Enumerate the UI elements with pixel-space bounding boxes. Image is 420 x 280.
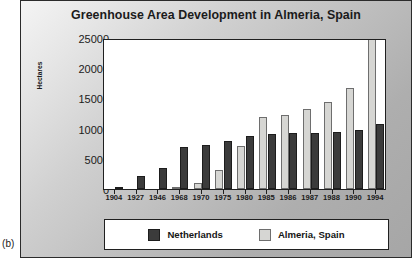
x-tick-label: 1927	[127, 193, 144, 202]
x-tick-label: 1904	[105, 193, 122, 202]
bar-almeria-1986	[281, 115, 289, 189]
bar-almeria-1970	[194, 183, 202, 189]
bar-almeria-1994	[368, 39, 376, 189]
bar-group	[300, 40, 322, 189]
x-tick-label: 1986	[280, 193, 297, 202]
legend-label: Almeria, Spain	[278, 229, 345, 240]
y-tick-label: 20000	[43, 63, 109, 75]
x-tick-label: 1985	[258, 193, 275, 202]
bar-group	[278, 40, 300, 189]
bar-group	[343, 40, 365, 189]
bar-netherlands-1946	[159, 168, 167, 189]
plot-wrapper: 0500010000150002000025000 19041927194619…	[43, 19, 391, 197]
bar-group	[235, 40, 257, 189]
bar-netherlands-1987	[311, 133, 319, 189]
y-tick-label: 5000	[43, 154, 109, 166]
bar-group	[148, 40, 170, 189]
chart-legend: NetherlandsAlmeria, Spain	[104, 219, 389, 250]
subfigure-label: (b)	[2, 238, 15, 249]
bar-group	[104, 40, 126, 189]
bar-almeria-1990	[346, 88, 354, 189]
dark-gray-swatch-icon	[148, 229, 160, 241]
legend-label: Netherlands	[167, 229, 222, 240]
plot-area	[103, 39, 386, 190]
y-tick-label: 25000	[43, 33, 109, 45]
bar-almeria-1985	[259, 117, 267, 189]
bar-netherlands-1927	[137, 176, 145, 189]
bar-almeria-1987	[303, 109, 311, 189]
bar-almeria-1980	[237, 146, 245, 189]
bar-netherlands-1970	[202, 145, 210, 189]
x-tick-label: 1946	[149, 193, 166, 202]
x-tick-label: 1970	[193, 193, 210, 202]
bar-netherlands-1994	[376, 124, 384, 189]
bar-netherlands-1986	[289, 133, 297, 189]
bar-almeria-1968	[172, 187, 180, 189]
x-tick-label: 1994	[367, 193, 384, 202]
bar-almeria-1988	[324, 102, 332, 189]
bar-almeria-1975	[215, 170, 223, 189]
bar-netherlands-1990	[355, 130, 363, 189]
legend-entry: Netherlands	[148, 229, 222, 241]
y-tick-label: 0	[43, 184, 109, 196]
bar-group	[169, 40, 191, 189]
bar-group	[365, 40, 386, 189]
bar-group	[256, 40, 278, 189]
y-axis-label: Hectares	[36, 76, 43, 90]
light-gray-swatch-icon	[259, 229, 271, 241]
bar-netherlands-1968	[180, 147, 188, 189]
x-tick-label: 1987	[301, 193, 318, 202]
bar-netherlands-1988	[333, 132, 341, 189]
bar-netherlands-1980	[246, 136, 254, 189]
x-tick-label: 1988	[323, 193, 340, 202]
bar-netherlands-1904	[115, 187, 123, 189]
x-tick-label: 1980	[236, 193, 253, 202]
y-tick-label: 10000	[43, 124, 109, 136]
bar-group	[191, 40, 213, 189]
figure-frame: Greenhouse Area Development in Almeria, …	[20, 0, 412, 258]
x-tick-label: 1990	[345, 193, 362, 202]
y-tick-label: 15000	[43, 93, 109, 105]
bars-layer	[104, 40, 385, 189]
bar-group	[126, 40, 148, 189]
x-tick-label: 1968	[171, 193, 188, 202]
legend-entry: Almeria, Spain	[259, 229, 345, 241]
bar-group	[213, 40, 235, 189]
bar-group	[322, 40, 344, 189]
bar-netherlands-1985	[268, 134, 276, 189]
x-tick-label: 1975	[214, 193, 231, 202]
bar-netherlands-1975	[224, 141, 232, 189]
